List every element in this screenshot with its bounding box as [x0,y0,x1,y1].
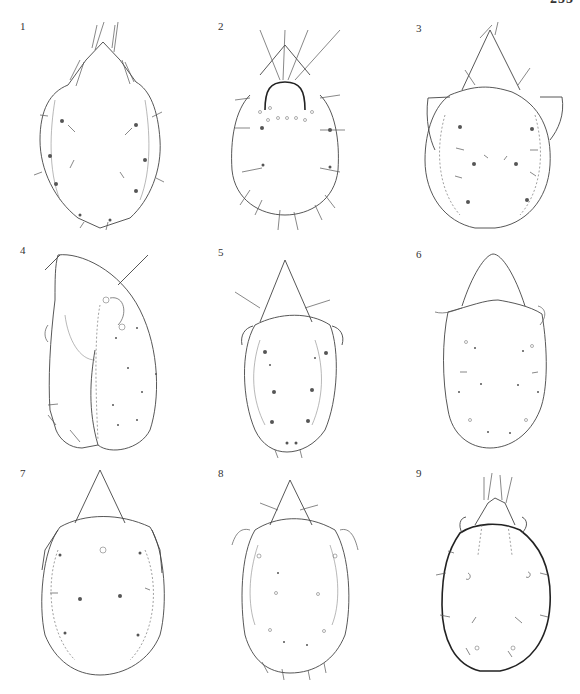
mite-lateral-drawing [0,230,190,455]
figure-2: 2 [190,0,380,230]
figure-1: 1 [0,0,190,230]
mite-dorsal-drawing [0,0,190,230]
figure-9: 9 [380,455,580,694]
figure-6: 6 [380,230,580,455]
figure-4: 4 [0,230,190,455]
figure-8: 8 [190,455,380,694]
mite-dorsal-drawing [380,230,580,455]
figure-7: 7 [0,455,190,694]
mite-dorsal-drawing [0,455,190,694]
mite-dorsal-drawing [190,455,380,694]
mite-dorsal-drawing [190,0,380,230]
figure-3: 3 [380,0,580,230]
figure-5: 5 [190,230,380,455]
mite-dorsal-drawing [380,0,580,230]
mite-dorsal-drawing [380,455,580,694]
mite-dorsal-drawing [190,230,380,455]
